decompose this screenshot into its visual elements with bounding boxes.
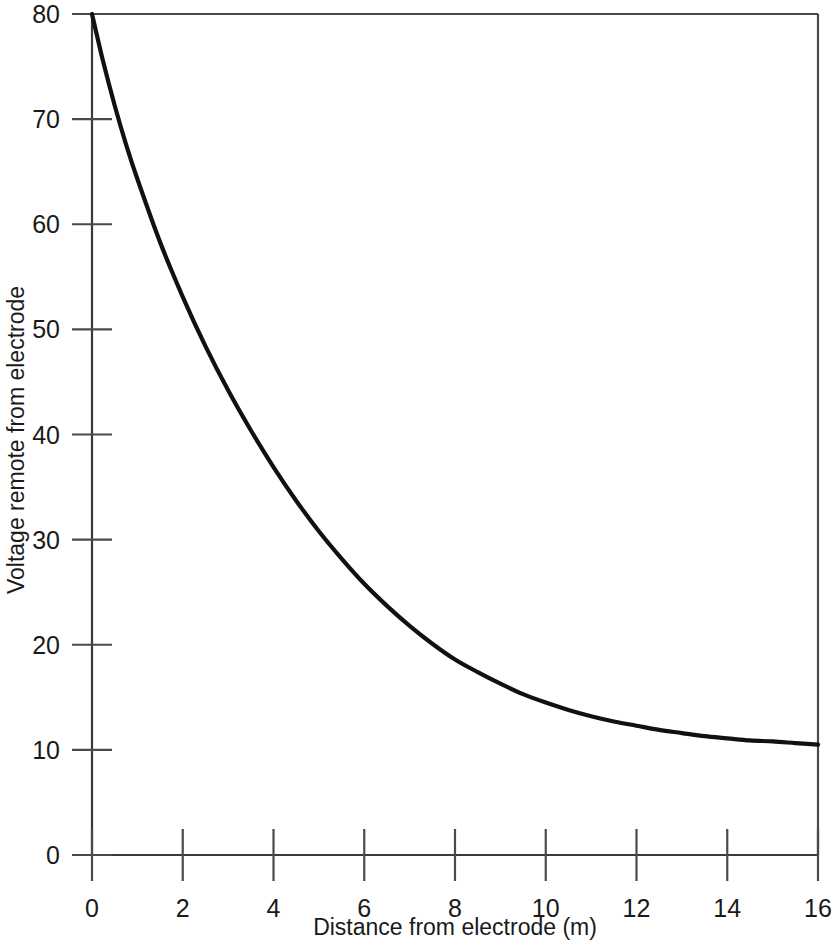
x-tick-label-4: 4 [267, 894, 281, 922]
y-tick-label-70: 70 [32, 105, 60, 133]
y-tick-label-50: 50 [32, 315, 60, 343]
y-tick-label-10: 10 [32, 736, 60, 764]
plot-svg: 01020304050607080 0246810121416 Distance… [0, 0, 835, 945]
x-tick-label-16: 16 [804, 894, 832, 922]
y-tick-label-0: 0 [46, 841, 60, 869]
x-tick-label-12: 12 [623, 894, 651, 922]
y-tick-label-60: 60 [32, 210, 60, 238]
y-tick-label-80: 80 [32, 0, 60, 28]
x-tick-label-2: 2 [176, 894, 190, 922]
x-tick-label-0: 0 [85, 894, 99, 922]
x-tick-label-14: 14 [713, 894, 741, 922]
y-axis-tick-labels: 01020304050607080 [32, 0, 60, 869]
chart-figure: 01020304050607080 0246810121416 Distance… [0, 0, 835, 945]
voltage-decay-curve [92, 14, 818, 745]
y-tick-label-40: 40 [32, 421, 60, 449]
y-tick-label-20: 20 [32, 631, 60, 659]
x-axis-title: Distance from electrode (m) [313, 914, 597, 940]
y-axis-title: Voltage remote from electrode [3, 286, 29, 594]
y-tick-label-30: 30 [32, 526, 60, 554]
